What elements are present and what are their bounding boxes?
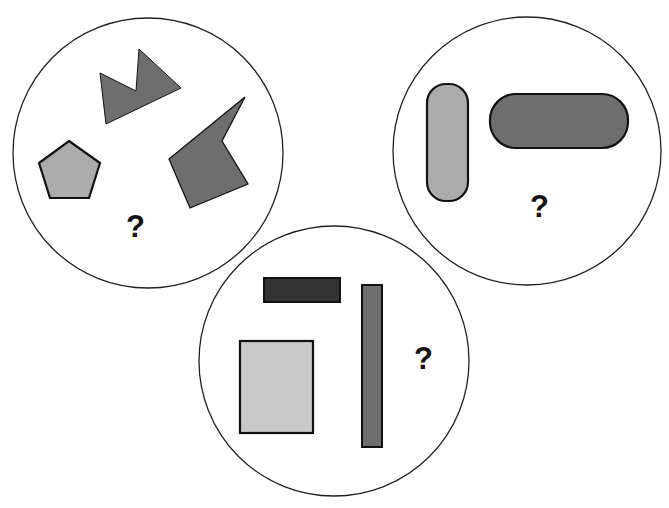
zigzag-polygon <box>100 49 181 124</box>
question-mark-right: ? <box>530 189 549 224</box>
tall-narrow-rectangle <box>362 285 382 447</box>
vertical-rounded-bar <box>427 84 468 201</box>
light-rectangle <box>240 341 313 433</box>
horizontal-rounded-bar <box>490 94 628 148</box>
question-mark-bottom: ? <box>414 341 433 376</box>
question-mark-left: ? <box>126 209 145 244</box>
arrow-polygon <box>169 97 248 208</box>
puzzle-diagram: ? ? ? <box>0 0 669 508</box>
bottom-circle-group: ? <box>199 226 469 496</box>
pentagon <box>39 141 100 198</box>
dark-horizontal-rectangle <box>264 278 340 302</box>
right-circle-group: ? <box>393 17 661 285</box>
left-circle-group: ? <box>13 18 283 288</box>
